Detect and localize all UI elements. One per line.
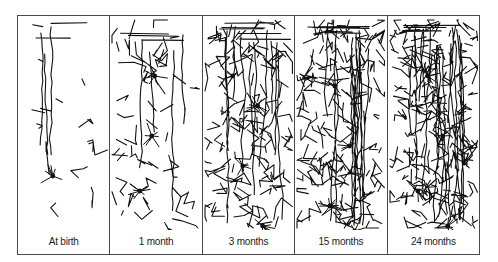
basal-dendrites	[245, 96, 267, 113]
dendrite-strokes	[205, 20, 292, 228]
neuron-drawing	[295, 16, 386, 230]
neuron-drawing	[203, 16, 294, 230]
basal-dendrites	[424, 63, 440, 83]
panel-label: At birth	[18, 236, 109, 247]
neuron-drawing	[110, 16, 201, 230]
basal-dendrites	[128, 184, 150, 199]
panel-label: 1 month	[110, 236, 201, 247]
neuron-development-figure: At birth 1 month 3 months 15 months 24 m…	[17, 15, 480, 255]
basal-dendrites	[144, 123, 160, 147]
dendrite-strokes	[112, 20, 199, 228]
panel-label: 15 months	[295, 236, 386, 247]
panel-15-months: 15 months	[295, 16, 387, 254]
panel-label: 3 months	[203, 236, 294, 247]
basal-dendrites	[41, 165, 62, 184]
neuron-drawing	[388, 16, 479, 230]
panel-at-birth: At birth	[18, 16, 110, 254]
dendrite-strokes	[390, 20, 477, 228]
panel-label: 24 months	[388, 236, 479, 247]
panel-1-month: 1 month	[110, 16, 202, 254]
dendrite-strokes	[297, 20, 384, 228]
panel-3-months: 3 months	[203, 16, 295, 254]
panel-24-months: 24 months	[388, 16, 479, 254]
dendrite-strokes	[32, 23, 108, 217]
basal-dendrites	[318, 198, 342, 215]
neuron-drawing	[18, 16, 109, 230]
